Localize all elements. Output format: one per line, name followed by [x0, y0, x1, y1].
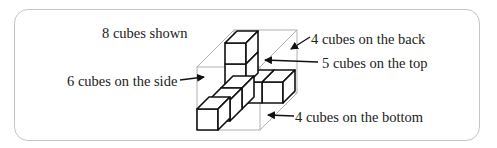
side-arrow-icon [180, 77, 204, 80]
back-arrow-icon [291, 37, 310, 49]
cube-diagram [0, 0, 497, 148]
top-arrow-icon [265, 60, 318, 62]
bottom-arrow-icon [268, 115, 294, 116]
